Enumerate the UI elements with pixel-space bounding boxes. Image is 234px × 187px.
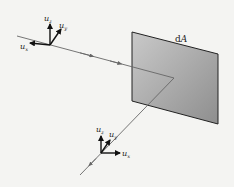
uy-label: uy bbox=[109, 130, 117, 141]
ux-label: ux bbox=[122, 149, 130, 159]
ux-label: ux bbox=[20, 42, 28, 52]
reflection-diagram: uz uy ux uz uy ux dA bbox=[0, 0, 234, 187]
incident-frame: uz uy ux bbox=[20, 14, 67, 52]
ux-axis-arrow bbox=[30, 43, 50, 45]
uy-axis-arrow bbox=[50, 29, 61, 45]
reflected-frame: uz uy ux bbox=[96, 125, 130, 159]
surface-element bbox=[132, 32, 218, 124]
uy-axis-arrow bbox=[101, 140, 110, 153]
surface-label: dA bbox=[175, 34, 188, 44]
uz-label: uz bbox=[96, 125, 104, 135]
uz-label: uz bbox=[44, 14, 52, 24]
reflected-ray bbox=[80, 78, 174, 175]
